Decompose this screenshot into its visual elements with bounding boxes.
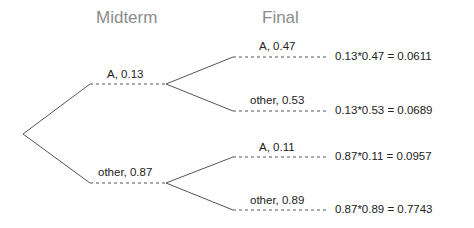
- midterm-label-a: A, 0.13: [107, 68, 143, 80]
- result-2: 0.13*0.53 = 0.0689: [335, 104, 433, 116]
- final-label-4: other, 0.89: [250, 194, 304, 206]
- final-label-3: A, 0.11: [259, 141, 295, 153]
- branch-other-other: [166, 183, 233, 210]
- result-4: 0.87*0.89 = 0.7743: [335, 203, 433, 215]
- final-label-2: other, 0.53: [250, 94, 304, 106]
- branch-root-other: [23, 134, 90, 183]
- midterm-label-other: other, 0.87: [98, 166, 152, 178]
- final-label-1: A, 0.47: [259, 40, 295, 52]
- result-1: 0.13*0.47 = 0.0611: [335, 50, 432, 62]
- result-3: 0.87*0.11 = 0.0957: [335, 150, 432, 162]
- branch-a-other: [166, 84, 233, 111]
- header-final: Final: [262, 8, 299, 28]
- branch-root-a: [23, 84, 90, 134]
- header-midterm: Midterm: [96, 8, 157, 28]
- branch-a-a: [166, 57, 233, 84]
- branch-other-a: [166, 157, 233, 183]
